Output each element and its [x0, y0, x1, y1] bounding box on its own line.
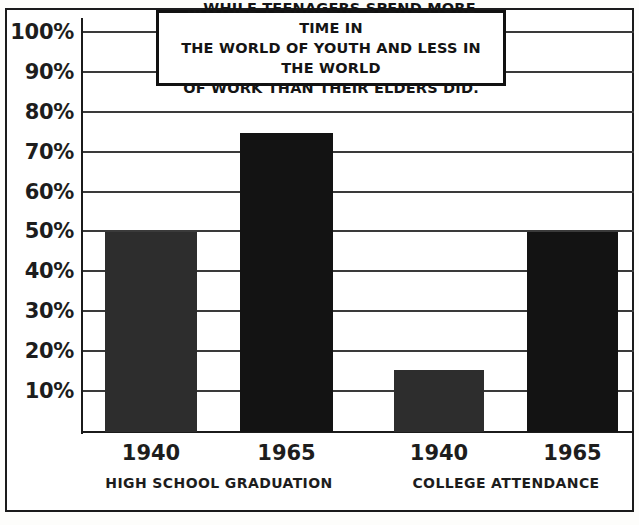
x-tick-label-year: 1940 [105, 441, 197, 465]
bar-1965-college [527, 232, 618, 432]
caption-line: OF WORK THAN THEIR ELDERS DID. [165, 78, 497, 98]
caption-text: ...WHILE TEENAGERS SPEND MORE TIME INTHE… [165, 0, 497, 98]
x-tick-label-year: 1965 [240, 441, 333, 465]
caption-box: ...WHILE TEENAGERS SPEND MORE TIME INTHE… [156, 10, 506, 86]
caption-line: ...WHILE TEENAGERS SPEND MORE TIME IN [165, 0, 497, 38]
caption-line: THE WORLD OF YOUTH AND LESS IN THE WORLD [165, 38, 497, 78]
bar-1940-hs [105, 232, 197, 432]
x-axis-group-label: HIGH SCHOOL GRADUATION [105, 475, 333, 491]
bar-1965-hs [240, 133, 333, 432]
x-axis-group-label: COLLEGE ATTENDANCE [394, 475, 618, 491]
x-tick-label-year: 1940 [394, 441, 484, 465]
comic-chart-panel: 100%90%80%70%60%50%40%30%20%10% 19401965… [0, 0, 639, 525]
x-tick-label-year: 1965 [527, 441, 618, 465]
bar-1940-college [394, 370, 484, 432]
